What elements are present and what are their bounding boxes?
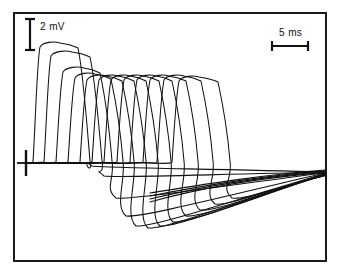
figure-container: 2 mV 5 ms (0, 0, 342, 277)
vertical-scale-label: 2 mV (40, 22, 65, 32)
horizontal-scale-label: 5 ms (279, 28, 302, 38)
plot-frame (13, 12, 327, 262)
